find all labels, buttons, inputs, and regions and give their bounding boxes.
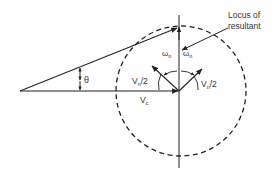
rotation-arc-right [181,71,194,75]
resultant-phasor [20,28,177,91]
angle-arc-right [194,76,198,90]
vn2-left-label: Vn/2 [132,76,148,87]
omega-left-label: ωn [162,49,171,59]
locus-pointer-arrow [182,28,228,50]
locus-label-line1: Locus of [228,10,261,20]
vn2-right-label: Vn/2 [201,79,217,90]
rotation-arc-left [164,71,177,75]
omega-right-label: ωn [183,49,192,59]
angle-arc-left [158,74,161,90]
vc-label: Vc [140,95,149,106]
theta-label: θ [84,75,89,85]
phasor-diagram: Locus of resultant θ ωn ωn Vn/2 Vn/2 Vc [0,0,279,178]
sideband-phasor-left [152,66,179,91]
locus-label-line2: resultant [228,21,261,31]
